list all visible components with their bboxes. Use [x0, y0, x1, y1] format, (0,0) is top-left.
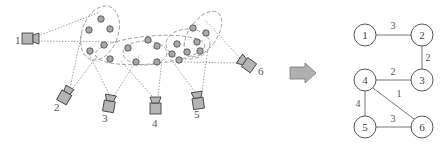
transform-arrow-icon [290, 63, 316, 83]
edge-weight-2-3: 2 [426, 52, 431, 63]
camera-label: 6 [258, 65, 264, 77]
diagram-canvas: 1 2 3 4 5 [0, 0, 445, 144]
camera-6: 6 [236, 54, 264, 77]
camera-1: 1 [15, 33, 39, 46]
camera-icon [22, 33, 39, 44]
camera-5: 5 [191, 91, 204, 120]
graph-node-1: 1 [354, 24, 376, 46]
edge-weight-1-2: 3 [391, 20, 396, 31]
camera-icon [191, 91, 204, 109]
camera-view-rays [38, 12, 240, 96]
graph-node-2: 2 [411, 24, 433, 46]
camera-3: 3 [102, 94, 116, 124]
svg-text:5: 5 [362, 121, 368, 133]
camera-label: 5 [194, 108, 200, 120]
graph-node-4: 4 [354, 69, 376, 91]
camera-label: 2 [54, 101, 60, 113]
scene-points [86, 16, 209, 65]
svg-text:3: 3 [419, 74, 425, 86]
camera-label: 4 [152, 117, 158, 129]
graph-node-6: 6 [411, 116, 433, 138]
camera-2: 2 [54, 85, 75, 113]
camera-label: 3 [102, 112, 108, 124]
svg-text:2: 2 [419, 29, 425, 41]
svg-text:4: 4 [362, 74, 368, 86]
edge-weight-4-6: 1 [397, 88, 402, 99]
camera-label: 1 [15, 34, 21, 46]
edge-weight-4-5: 4 [356, 98, 361, 109]
camera-icon [150, 97, 161, 114]
camera-4: 4 [150, 97, 161, 129]
svg-text:6: 6 [419, 121, 425, 133]
edge-weight-4-3: 2 [391, 66, 396, 77]
camera-icon [103, 94, 117, 113]
graph-node-5: 5 [354, 116, 376, 138]
svg-text:1: 1 [362, 29, 368, 41]
edge-weight-5-6: 3 [391, 113, 396, 124]
graph-node-3: 3 [411, 69, 433, 91]
